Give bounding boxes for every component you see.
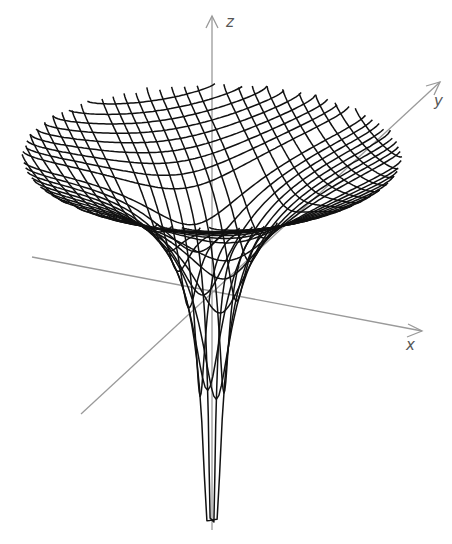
surface-plot (0, 0, 452, 544)
x-axis-label: x (406, 336, 415, 354)
mesh-line (30, 95, 316, 153)
mesh-line (335, 103, 398, 169)
y-axis-label: y (434, 92, 443, 110)
mesh-line (136, 93, 264, 396)
z-axis-label: z (226, 13, 234, 31)
